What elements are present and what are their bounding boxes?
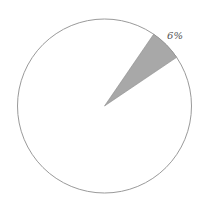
slice-label: 6%: [167, 30, 183, 41]
pie-chart: 6%: [0, 0, 202, 209]
